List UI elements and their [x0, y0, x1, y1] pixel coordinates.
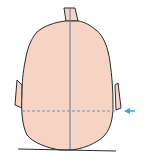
head-diagram [0, 0, 145, 160]
arrow-pointing-left-icon [124, 108, 135, 114]
right-ear [115, 83, 121, 110]
left-ear [15, 80, 22, 108]
head-outline [22, 21, 113, 150]
nose-shape [64, 8, 78, 21]
